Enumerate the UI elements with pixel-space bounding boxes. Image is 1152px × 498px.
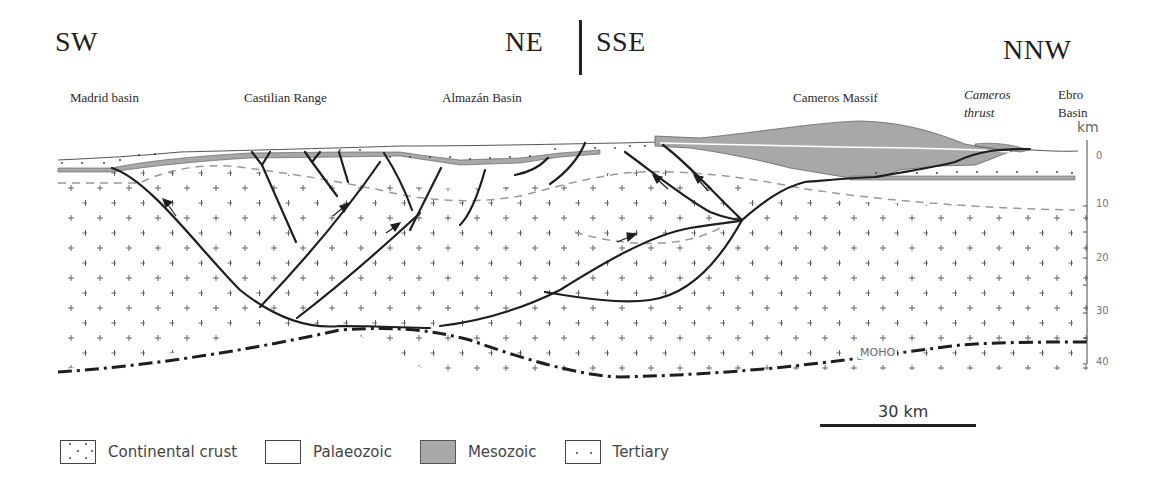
legend-label-palaeozoic: Palaeozoic [313, 443, 392, 461]
moho-label: MOHO [858, 346, 897, 359]
scale-bar-label: 30 km [878, 402, 928, 421]
tick-10: 10 [1096, 198, 1109, 209]
tick-30: 30 [1096, 305, 1109, 316]
tick-0: 0 [1096, 150, 1102, 161]
legend-label-tertiary: Tertiary [613, 443, 669, 461]
legend-item-mesozoic: Mesozoic [420, 440, 537, 464]
legend-item-tertiary: Tertiary [565, 440, 669, 464]
legend: Continental crust Palaeozoic Mesozoic Te… [60, 440, 697, 464]
geological-cross-section [0, 0, 1152, 498]
legend-item-palaeozoic: Palaeozoic [265, 440, 392, 464]
legend-label-continental-crust: Continental crust [108, 443, 237, 461]
crust-swatch-icon [60, 440, 96, 464]
legend-label-mesozoic: Mesozoic [468, 443, 537, 461]
palaeozoic-swatch-icon [265, 440, 301, 464]
depth-unit: km [1077, 119, 1099, 135]
tertiary-swatch-icon [565, 440, 601, 464]
scale-bar [820, 424, 976, 427]
continental-crust-fill [58, 160, 1088, 375]
legend-item-continental-crust: Continental crust [60, 440, 237, 464]
mesozoic-swatch-icon [420, 440, 456, 464]
tick-40: 40 [1096, 356, 1109, 367]
tick-20: 20 [1096, 252, 1109, 263]
